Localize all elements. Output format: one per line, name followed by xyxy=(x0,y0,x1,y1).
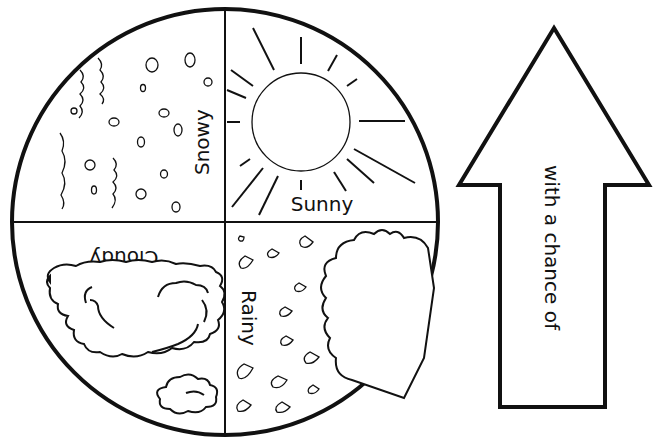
rain-cloud-icon xyxy=(321,230,434,398)
weather-wheel: Snowy xyxy=(0,0,440,440)
chance-arrow: with a chance of xyxy=(459,28,649,407)
rainy-label: Rainy xyxy=(237,290,261,346)
snowy-label: Snowy xyxy=(190,109,214,175)
arrow-label: with a chance of xyxy=(540,165,564,331)
weather-wheel-worksheet: Snowy xyxy=(0,0,664,440)
sunny-label: Sunny xyxy=(291,192,354,216)
